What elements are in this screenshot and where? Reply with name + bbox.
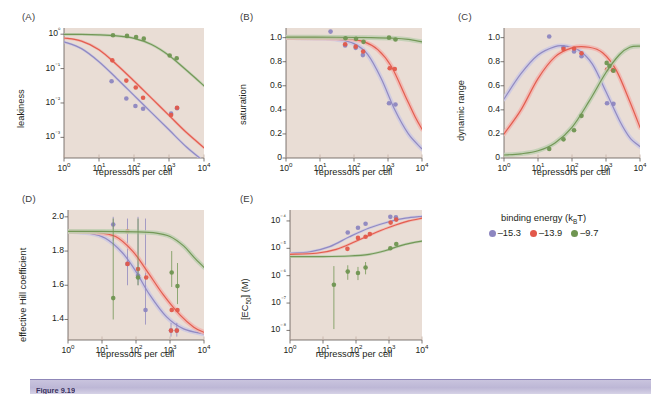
legend-marker-green-icon — [571, 230, 578, 237]
panel-A-point-1-3 — [141, 96, 146, 101]
panel-A-point-0-1 — [124, 96, 129, 101]
panel-B-point-1-1 — [353, 44, 358, 49]
panel-A-ytick-0: 10⁰ — [16, 28, 60, 38]
panel-C-xtick-3: 103 — [592, 163, 620, 173]
panel-A-curve-1 — [64, 38, 204, 148]
panel-B-ytick-0: 0 — [238, 152, 282, 162]
panel-A-point-2-4 — [167, 53, 172, 58]
panel-E-ytick-2: 10⁻⁶ — [242, 270, 286, 280]
panel-E-point-0-3 — [388, 215, 393, 220]
panel-B-xtick-3: 103 — [374, 163, 402, 173]
legend: binding energy (kBT) –15.3 –13.9 –9.7 — [436, 212, 651, 238]
panel-A-point-1-1 — [124, 78, 129, 83]
panel-E-xtick-0: 100 — [276, 345, 304, 355]
panel-D: (D) effective Hill coefficient repressor… — [0, 180, 218, 365]
legend-label-1: –13.9 — [539, 228, 562, 238]
panel-A-xtick-1: 101 — [85, 163, 113, 173]
panel-C-xtick-1: 101 — [524, 163, 552, 173]
panel-A-ytick-2: 10⁻² — [16, 97, 60, 107]
panel-E-xtick-2: 102 — [342, 345, 370, 355]
panel-D-point-0-3 — [143, 308, 148, 313]
panel-A-ytick-1: 10⁻¹ — [16, 63, 60, 73]
panel-E-point-1-1 — [356, 236, 361, 241]
panel-A-curve-0 — [64, 42, 204, 162]
panel-A-point-2-1 — [125, 34, 130, 39]
panel-D-xtick-0: 100 — [54, 345, 82, 355]
panel-B-point-0-0 — [328, 29, 333, 34]
legend-title: binding energy (kBT) — [436, 212, 651, 223]
panel-C-point-1-0 — [561, 47, 566, 52]
panel-D-point-2-1 — [136, 275, 141, 280]
panel-E-ytick-4: 10⁻⁸ — [242, 324, 286, 334]
panel-C-point-0-5 — [611, 102, 616, 107]
panel-B-point-2-2 — [361, 40, 366, 45]
panel-C-point-0-4 — [605, 101, 610, 106]
panel-C-point-2-6 — [611, 68, 616, 73]
panel-A-point-0-0 — [109, 79, 114, 84]
legend-label-2: –9.7 — [580, 228, 598, 238]
panel-C-ytick-0: 0 — [456, 152, 500, 162]
panel-E-ytick-1: 10⁻⁵ — [242, 242, 286, 252]
panel-E-ylabel-tail: ] (M) — [240, 278, 250, 297]
panel-E-point-1-0 — [345, 247, 350, 252]
panel-E-point-0-1 — [356, 225, 361, 230]
panel-E-point-1-3 — [368, 232, 373, 237]
panel-E-point-2-0 — [332, 282, 337, 287]
panel-C-xtick-0: 100 — [490, 163, 518, 173]
panel-B-ytick-2: 0.4 — [238, 104, 282, 114]
panel-A-point-2-5 — [174, 56, 179, 61]
panel-D-xtick-4: 104 — [190, 345, 218, 355]
figure-container: (A) leakiness repressors per cell 10⁰10⁻… — [0, 0, 651, 394]
panel-E-point-0-0 — [345, 230, 350, 235]
panel-C-point-2-0 — [547, 147, 552, 152]
panel-B-point-2-0 — [343, 36, 348, 41]
panel-C: (C) dynamic range repressors per cell 00… — [436, 0, 651, 180]
caption-label: Figure 9.19 — [36, 386, 75, 394]
panel-B: (B) saturation repressors per cell 00.20… — [218, 0, 436, 180]
panel-D-point-1-1 — [125, 262, 130, 267]
panel-A-xtick-0: 100 — [50, 163, 78, 173]
panel-B-point-1-3 — [387, 66, 392, 71]
legend-item-0[interactable]: –15.3 — [489, 228, 521, 238]
panel-C-ytick-2: 0.4 — [456, 104, 500, 114]
panel-A: (A) leakiness repressors per cell 10⁰10⁻… — [0, 0, 218, 180]
legend-item-1[interactable]: –13.9 — [530, 228, 562, 238]
panel-E-point-1-5 — [394, 217, 399, 222]
panel-D-xtick-1: 101 — [88, 345, 116, 355]
panel-C-curve-0 — [504, 46, 640, 147]
panel-D-point-1-7 — [175, 328, 180, 333]
panel-C-xtick-4: 104 — [626, 163, 651, 173]
panel-D-xtick-3: 103 — [156, 345, 184, 355]
panel-E-xtick-4: 104 — [408, 345, 436, 355]
panel-A-xtick-2: 102 — [120, 163, 148, 173]
panel-E-point-2-1 — [345, 269, 350, 274]
panel-B-point-1-2 — [361, 49, 366, 54]
panel-B-band-1 — [286, 38, 422, 129]
panel-E-xtick-1: 101 — [309, 345, 337, 355]
legend-title-tail: T) — [577, 212, 586, 223]
panel-D-band-2 — [68, 231, 204, 267]
legend-title-main: binding energy (k — [501, 212, 573, 223]
panel-D-point-1-4 — [169, 308, 174, 313]
panel-E-point-2-4 — [388, 246, 393, 251]
panel-D-svg — [0, 180, 218, 365]
panel-A-point-2-2 — [134, 35, 139, 40]
panel-B-ytick-1: 0.2 — [238, 128, 282, 138]
panel-D-point-2-2 — [169, 270, 174, 275]
panel-C-point-2-3 — [579, 114, 584, 119]
panel-D-ytick-0: 1.4 — [20, 313, 64, 323]
legend-marker-purple-icon — [489, 230, 496, 237]
panel-B-ytick-3: 0.6 — [238, 80, 282, 90]
panel-C-ytick-3: 0.6 — [456, 80, 500, 90]
panel-A-point-2-0 — [111, 33, 116, 38]
panel-E-band-1 — [290, 218, 422, 254]
legend-item-2[interactable]: –9.7 — [571, 228, 598, 238]
panel-B-point-2-4 — [393, 37, 398, 42]
panel-A-xtick-4: 104 — [190, 163, 218, 173]
panel-E-ytick-0: 10⁻⁴ — [242, 215, 286, 225]
panel-C-point-0-0 — [547, 34, 552, 39]
panel-B-point-0-4 — [387, 101, 392, 106]
panel-E-point-2-2 — [356, 271, 361, 276]
panel-E-xtick-3: 103 — [375, 345, 403, 355]
panel-D-ytick-1: 1.6 — [20, 279, 64, 289]
